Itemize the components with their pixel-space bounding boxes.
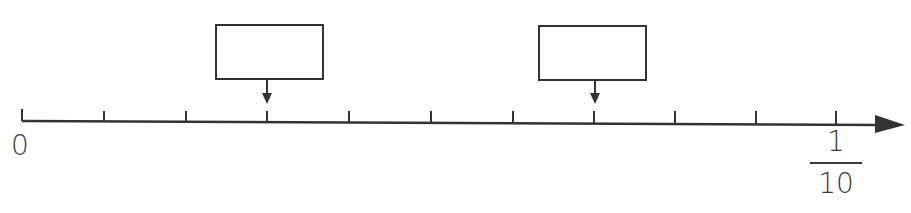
end-label-fraction: 1 10 [806, 128, 866, 198]
box-pointer-left [262, 79, 272, 104]
number-line-diagram [0, 0, 911, 213]
fraction-numerator: 1 [806, 128, 866, 158]
fraction-bar [810, 162, 862, 164]
arrow-down-icon [262, 93, 272, 104]
fraction-denominator: 10 [806, 170, 866, 198]
answer-box-right[interactable] [538, 25, 647, 81]
axis-arrowhead-icon [875, 115, 905, 133]
answer-box-left[interactable] [215, 24, 324, 80]
box-pointer-right [590, 80, 600, 104]
start-label: 0 [9, 132, 31, 160]
arrow-down-icon [590, 93, 600, 104]
number-line-axis [22, 121, 878, 125]
